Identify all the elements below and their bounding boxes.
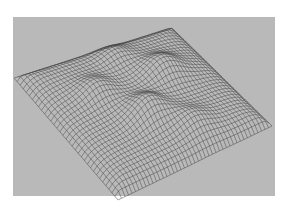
wireframe-surface-plot [0, 0, 284, 216]
surface-mesh [14, 28, 272, 200]
mesh-lines [14, 28, 272, 200]
